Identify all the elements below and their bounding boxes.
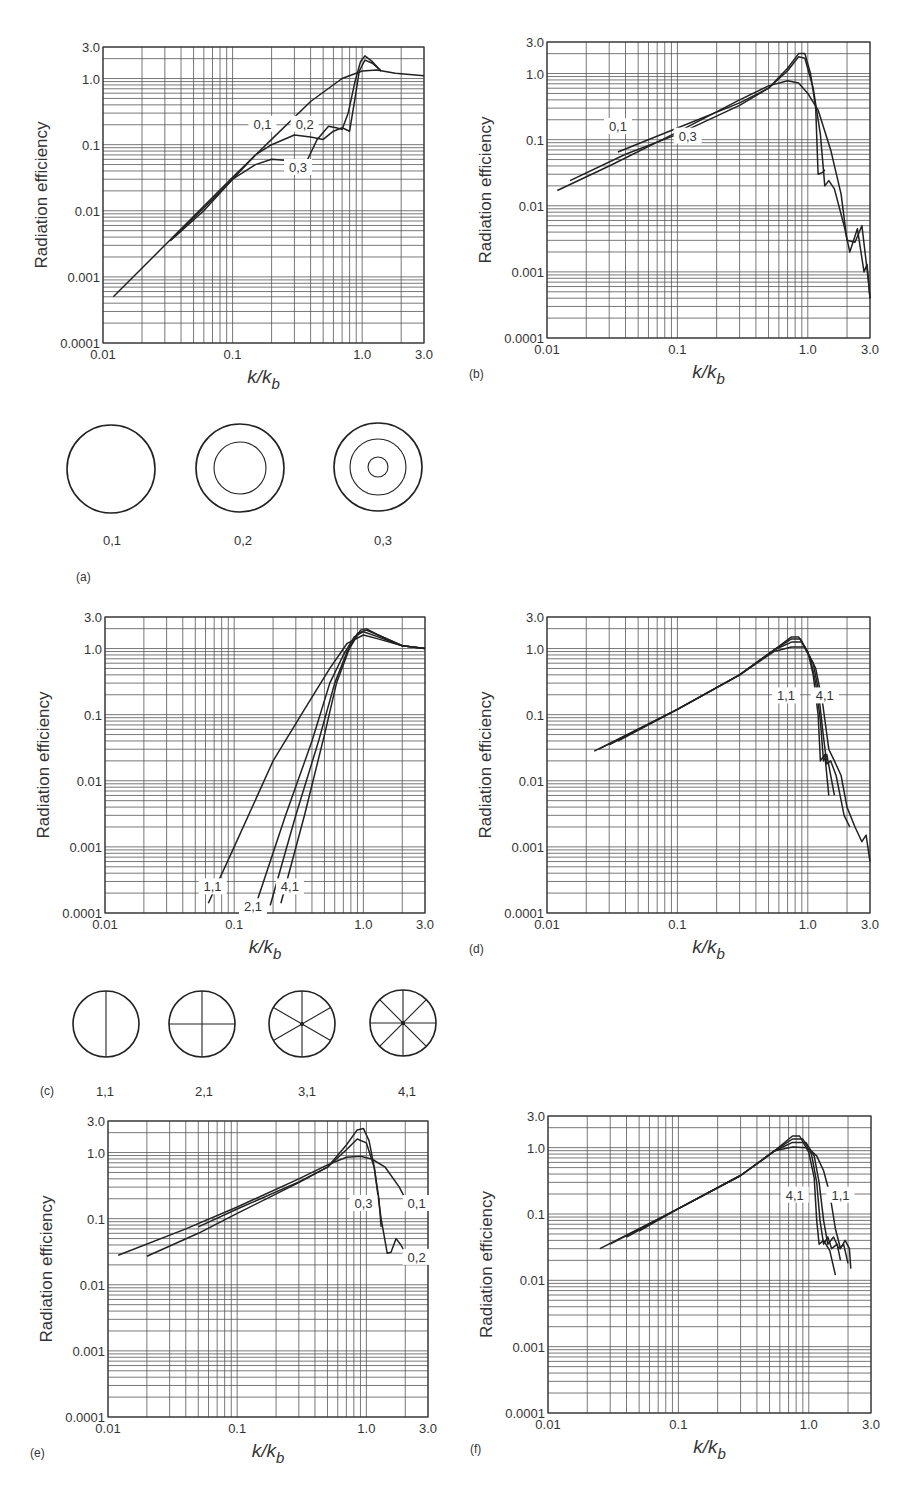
grid-lines — [105, 617, 425, 913]
mode-shape-0-2 — [196, 424, 284, 512]
y-tick-label: 1.0 — [82, 72, 100, 87]
chart-e: 0.010.11.03.00.00010.0010.010.11.03.0Rad… — [30, 1114, 437, 1466]
plot-frame — [548, 1116, 871, 1413]
y-tick-label: 0.1 — [84, 708, 102, 723]
plot-frame — [103, 47, 424, 343]
curve-annotation: 2,1 — [244, 899, 262, 914]
plot-frame — [547, 42, 870, 338]
chart-a: 0.010.11.03.00.00010.0010.010.11.03.0Rad… — [32, 40, 433, 392]
curve-annotation: 4,1 — [281, 879, 299, 894]
x-tick-label: 0.1 — [228, 1421, 246, 1436]
panel-label-a: (a) — [76, 570, 91, 584]
curve-4-1 — [618, 647, 870, 862]
grid-lines — [548, 1116, 871, 1413]
curve-0-2 — [570, 57, 870, 299]
mode-label-0-3: 0,3 — [374, 533, 392, 548]
y-tick-label: 0.01 — [77, 774, 102, 789]
y-tick-label: 0.001 — [67, 270, 100, 285]
y-tick-label: 0.1 — [527, 1207, 545, 1222]
x-axis-label: k/kb — [249, 936, 282, 962]
mode-shape-0-1 — [67, 425, 155, 513]
curve-annotation: 1,1 — [831, 1188, 849, 1203]
plot-frame — [105, 617, 425, 913]
y-tick-label: 0.0001 — [504, 331, 544, 346]
curve-0-1 — [113, 70, 424, 297]
figure: 0.010.11.03.00.00010.0010.010.11.03.0Rad… — [0, 0, 911, 1501]
x-axis-label: k/kb — [252, 1440, 285, 1466]
x-tick-label: 3.0 — [415, 347, 433, 362]
y-tick-label: 1.0 — [87, 1146, 105, 1161]
chart-b: 0.010.11.03.00.00010.0010.010.11.03.0Rad… — [469, 35, 879, 387]
x-axis-label: k/kb — [247, 366, 280, 392]
y-tick-label: 0.01 — [519, 774, 544, 789]
y-tick-label: 0.0001 — [65, 1410, 105, 1425]
panel-label: (f) — [470, 1442, 481, 1456]
y-tick-label: 3.0 — [82, 40, 100, 55]
y-tick-label: 3.0 — [527, 1109, 545, 1124]
y-axis-label: Radiation efficiency — [37, 1195, 56, 1343]
x-tick-label: 1.0 — [357, 1421, 375, 1436]
y-tick-label: 0.0001 — [505, 1406, 545, 1421]
mode-diagrams-a — [67, 423, 422, 513]
y-axis-label: Radiation efficiency — [476, 691, 495, 839]
y-tick-label: 3.0 — [526, 610, 544, 625]
grid-lines — [103, 47, 424, 343]
y-axis-label: Radiation efficiency — [477, 1190, 496, 1338]
y-tick-label: 0.01 — [75, 204, 100, 219]
curve-annotation: 0,3 — [679, 129, 697, 144]
x-tick-label: 1.0 — [799, 917, 817, 932]
y-axis-label: Radiation efficiency — [32, 121, 51, 269]
curve-3-1 — [270, 630, 425, 905]
y-tick-label: 0.1 — [87, 1212, 105, 1227]
x-tick-label: 0.1 — [225, 917, 243, 932]
figure-canvas: 0.010.11.03.00.00010.0010.010.11.03.0Rad… — [0, 0, 911, 1501]
y-tick-label: 1.0 — [84, 642, 102, 657]
mode-shape-4-1 — [370, 990, 436, 1056]
curve-annotation: 1,1 — [777, 688, 795, 703]
y-tick-label: 0.0001 — [504, 906, 544, 921]
mode-label-0-2: 0,2 — [234, 533, 252, 548]
y-tick-label: 0.0001 — [62, 906, 102, 921]
y-tick-label: 0.1 — [526, 708, 544, 723]
mode-diagrams-c — [73, 990, 436, 1057]
x-tick-label: 0.1 — [668, 342, 686, 357]
x-tick-label: 0.1 — [669, 1417, 687, 1432]
curve-annotation: 4,1 — [816, 688, 834, 703]
y-tick-label: 0.001 — [69, 840, 102, 855]
x-axis-label: k/kb — [693, 1436, 726, 1462]
mode-label-0-1: 0,1 — [103, 533, 121, 548]
curve-annotation: 0,1 — [408, 1196, 426, 1211]
chart-d: 0.010.11.03.00.00010.0010.010.11.03.0Rad… — [469, 610, 879, 962]
y-tick-label: 0.1 — [82, 138, 100, 153]
x-tick-label: 0.1 — [224, 347, 242, 362]
x-tick-label: 1.0 — [800, 1417, 818, 1432]
mode-shape-1-1 — [73, 991, 139, 1057]
curve-annotation: 4,1 — [786, 1188, 804, 1203]
y-axis-label: Radiation efficiency — [476, 116, 495, 264]
x-tick-label: 3.0 — [862, 1417, 880, 1432]
y-tick-label: 0.001 — [511, 265, 544, 280]
x-axis-label: k/kb — [692, 361, 725, 387]
y-tick-label: 0.001 — [511, 840, 544, 855]
chart-f: 0.010.11.03.00.00010.0010.010.11.03.0Rad… — [470, 1109, 880, 1462]
y-tick-label: 0.001 — [72, 1344, 105, 1359]
y-tick-label: 1.0 — [526, 67, 544, 82]
panel-label-c: (c) — [40, 1084, 54, 1098]
curve-annotation: 0,3 — [354, 1196, 372, 1211]
curve-annotation: 0,1 — [253, 117, 271, 132]
plot-frame — [108, 1121, 428, 1417]
x-tick-label: 1.0 — [354, 917, 372, 932]
x-tick-label: 3.0 — [416, 917, 434, 932]
mode-label-4-1: 4,1 — [398, 1084, 416, 1099]
x-tick-label: 1.0 — [353, 347, 371, 362]
x-axis-label: k/kb — [692, 936, 725, 962]
curve-annotation: 0,1 — [609, 119, 627, 134]
grid-lines — [547, 42, 870, 338]
mode-label-1-1: 1,1 — [96, 1084, 114, 1099]
mode-shape-2-1 — [169, 991, 235, 1057]
x-tick-label: 3.0 — [861, 917, 879, 932]
y-tick-label: 3.0 — [87, 1114, 105, 1129]
y-tick-label: 3.0 — [526, 35, 544, 50]
curve-2-1 — [627, 1142, 849, 1263]
grid-lines — [547, 617, 870, 913]
